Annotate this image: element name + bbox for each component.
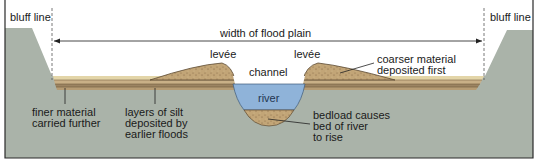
label-levee-left: levée [210,49,236,60]
label-width-of-flood-plain: width of flood plain [220,28,311,39]
label-levee-right: levée [294,49,320,60]
arrowhead-left [54,39,60,44]
label-river: river [258,93,279,104]
label-bluff-line-left: bluff line [10,12,51,23]
label-channel: channel [249,67,288,78]
label-bluff-line-right: bluff line [490,12,531,23]
label-coarser-material: coarser material deposited first [377,54,456,76]
arrowhead-right [476,39,482,44]
levee-left [150,63,235,80]
flood-plain-diagram: bluff line bluff line width of flood pla… [0,0,538,164]
label-bedload: bedload causes bed of river to rise [313,110,390,143]
label-finer-material: finer material carried further [32,107,100,129]
label-layers-of-silt: layers of silt deposited by earlier floo… [125,107,188,140]
diagram-canvas [0,0,538,164]
